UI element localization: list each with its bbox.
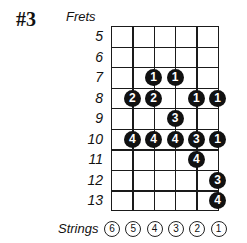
string-number: 6 (104, 221, 120, 237)
finger-dot: 1 (209, 131, 226, 148)
finger-dot: 4 (124, 131, 141, 148)
finger-dot: 1 (167, 69, 184, 86)
finger-dot: 4 (167, 131, 184, 148)
fret-number: 6 (73, 49, 103, 65)
strings-axis-label: Strings (58, 222, 98, 236)
fret-number: 5 (73, 28, 103, 44)
fretboard-grid: 1 1 2 2 1 1 3 4 4 4 3 1 4 3 4 (111, 26, 218, 211)
fret-number: 9 (73, 110, 103, 126)
string-line (111, 26, 112, 211)
finger-dot: 2 (145, 90, 162, 107)
fret-number: 12 (73, 172, 103, 188)
finger-dot: 2 (124, 90, 141, 107)
fret-line (111, 190, 219, 191)
string-number: 4 (147, 221, 163, 237)
finger-dot: 1 (188, 90, 205, 107)
string-line (154, 26, 155, 211)
finger-dot: 4 (188, 151, 205, 168)
fret-line (111, 149, 219, 150)
string-line (196, 26, 197, 211)
finger-dot: 1 (145, 69, 162, 86)
fret-number: 10 (73, 131, 103, 147)
finger-dot: 4 (145, 131, 162, 148)
fret-line (111, 170, 219, 171)
string-line (132, 26, 133, 211)
finger-dot: 3 (209, 172, 226, 189)
finger-dot: 3 (188, 131, 205, 148)
fret-line (111, 129, 219, 130)
diagram-title: #3 (16, 9, 36, 29)
fret-line (111, 26, 219, 27)
fret-number: 7 (73, 69, 103, 85)
fret-line (111, 47, 219, 48)
string-number: 3 (168, 221, 184, 237)
string-number: 5 (125, 221, 141, 237)
fret-number: 11 (73, 151, 103, 167)
finger-dot: 1 (209, 90, 226, 107)
finger-dot: 4 (209, 192, 226, 209)
string-number: 1 (211, 221, 227, 237)
string-number: 2 (189, 221, 205, 237)
frets-axis-label: Frets (66, 10, 96, 24)
fret-line (111, 67, 219, 68)
fret-number: 8 (73, 90, 103, 106)
fret-line (111, 210, 219, 211)
fret-line (111, 88, 219, 89)
fret-line (111, 108, 219, 109)
finger-dot: 3 (167, 110, 184, 127)
fret-number: 13 (73, 192, 103, 208)
